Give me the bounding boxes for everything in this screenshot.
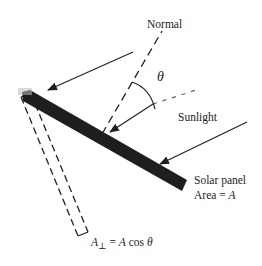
projected-rhs-cos: cos <box>126 236 147 248</box>
projected-eq: = <box>107 236 119 248</box>
sunlight-arrow-top <box>48 52 133 90</box>
sunlight-label: Sunlight <box>178 111 217 124</box>
sunlight-extension <box>153 90 196 104</box>
solar-panel-bar <box>22 90 187 191</box>
theta-label: θ <box>157 70 164 83</box>
panel-name-label: Solar panel <box>194 174 246 187</box>
projected-area-formula: A⊥ = A cos θ <box>91 236 153 253</box>
projected-rhs-var: A <box>119 236 126 248</box>
diagram-graphics <box>0 0 262 266</box>
panel-area-label: Area = A <box>194 189 236 202</box>
sunlight-arrow-bottom <box>160 122 247 164</box>
normal-label: Normal <box>147 18 182 31</box>
panel-area-var: A <box>229 189 236 201</box>
projected-lhs-sub: ⊥ <box>98 241 106 251</box>
projected-lhs-var: A <box>91 236 98 248</box>
projected-rhs-theta: θ <box>147 236 153 248</box>
solar-panel-diagram: Normal θ Sunlight Solar panel Area = A A… <box>0 0 262 266</box>
panel-area-prefix: Area = <box>194 189 229 201</box>
